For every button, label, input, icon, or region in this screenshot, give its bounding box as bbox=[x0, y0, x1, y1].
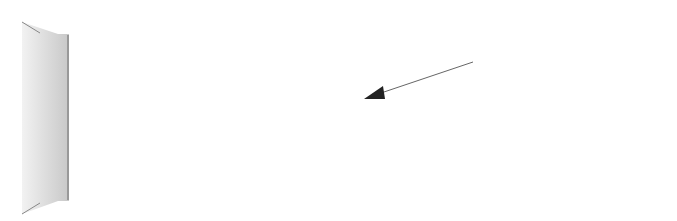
annotation-leader-line bbox=[378, 62, 473, 94]
fretboard-diagram bbox=[0, 0, 677, 221]
annotation bbox=[364, 62, 473, 99]
arrow-head-icon bbox=[364, 86, 385, 99]
nut bbox=[22, 22, 69, 214]
